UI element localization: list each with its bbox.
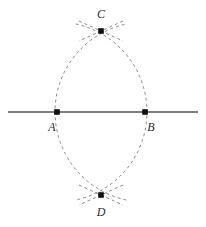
point-label-A: A: [48, 121, 55, 133]
point-B: [142, 109, 148, 115]
point-label-D: D: [97, 206, 106, 218]
point-label-B: B: [147, 121, 154, 133]
point-C: [98, 28, 104, 34]
point-label-C: C: [97, 8, 105, 20]
figure-svg: [0, 0, 206, 227]
point-D: [98, 192, 104, 198]
geometry-figure: A B C D: [0, 0, 206, 227]
points-group: [54, 28, 148, 198]
point-A: [54, 109, 60, 115]
